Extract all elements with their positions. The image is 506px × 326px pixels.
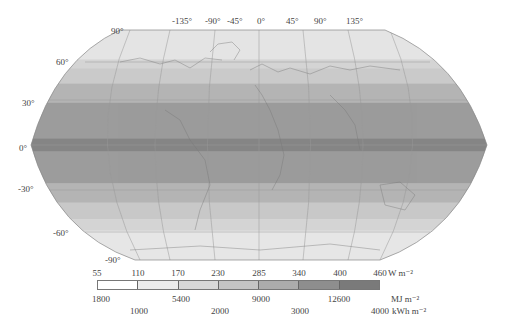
lat-label: 30° xyxy=(22,99,35,108)
legend-w-tick: 460 xyxy=(373,268,387,278)
legend-w-tick: 110 xyxy=(131,268,144,278)
irradiance-band xyxy=(0,151,506,183)
irradiance-band xyxy=(0,103,506,139)
legend-color-bar xyxy=(97,280,380,290)
legend-mj-tick: 1800 xyxy=(92,294,110,304)
legend-kwh-tick: 1000 xyxy=(130,306,148,316)
legend-w-tick: 400 xyxy=(333,268,347,278)
irradiance-band xyxy=(0,30,506,60)
legend-kwh-unit: kWh m⁻² xyxy=(392,306,426,316)
lon-label: -135° xyxy=(172,17,192,26)
lon-label: 90° xyxy=(314,17,327,26)
lon-label: 45° xyxy=(286,17,299,26)
legend-w-unit: W m⁻² xyxy=(388,268,413,278)
lat-label: -60° xyxy=(53,229,69,238)
legend-w-tick: 230 xyxy=(211,268,225,278)
lat-label: 60° xyxy=(56,58,69,67)
lat-label: 0° xyxy=(19,144,27,153)
irradiance-band xyxy=(0,84,506,104)
lat-label: 90° xyxy=(111,27,124,36)
irradiance-band xyxy=(0,219,506,231)
legend-mj-tick: 9000 xyxy=(252,294,270,304)
legend-segment xyxy=(219,281,259,289)
legend-segment xyxy=(299,281,339,289)
irradiance-band xyxy=(0,203,506,220)
legend-kwh-tick: 3000 xyxy=(291,306,309,316)
legend-w-tick: 285 xyxy=(252,268,266,278)
irradiance-band xyxy=(0,68,506,84)
legend-w-tick: 55 xyxy=(93,268,102,278)
lon-label: -90° xyxy=(205,17,221,26)
legend-w-tick: 170 xyxy=(171,268,185,278)
legend-mj-tick: 12600 xyxy=(328,294,351,304)
irradiance-band xyxy=(0,183,506,203)
lon-label: -45° xyxy=(227,17,243,26)
legend-segment xyxy=(98,281,138,289)
lon-label: 0° xyxy=(257,17,265,26)
irradiance-band xyxy=(0,231,506,261)
legend-kwh-tick: 2000 xyxy=(211,306,229,316)
legend-mj-tick: 5400 xyxy=(172,294,190,304)
legend-segment xyxy=(138,281,178,289)
legend-segment xyxy=(340,281,379,289)
legend-mj-unit: MJ m⁻² xyxy=(391,294,419,304)
legend-segment xyxy=(259,281,299,289)
legend-w-tick: 340 xyxy=(292,268,306,278)
lon-label: 135° xyxy=(346,17,363,26)
irradiance-band xyxy=(0,59,506,68)
lat-label: -30° xyxy=(18,185,34,194)
lat-label: -90° xyxy=(105,256,121,265)
legend-kwh-tick: 4000 xyxy=(371,306,389,316)
legend-segment xyxy=(179,281,219,289)
